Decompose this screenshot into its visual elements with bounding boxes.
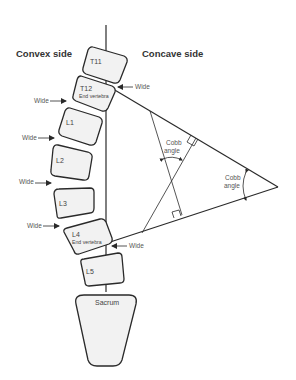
svg-text:Wide: Wide (135, 83, 150, 90)
svg-text:Wide: Wide (19, 178, 34, 185)
wide-indicator-left-1: Wide (34, 97, 66, 104)
vertebra-l3: L3 (54, 188, 94, 218)
svg-text:L1: L1 (66, 119, 74, 126)
vertebra-l1: L1 (59, 108, 102, 145)
cobb-angle-diagram: Convex side Concave side Cobb angle Cobb… (0, 0, 296, 380)
sacrum: Sacrum (76, 295, 137, 366)
svg-text:End vertebra: End vertebra (72, 239, 102, 245)
svg-text:Wide: Wide (34, 97, 49, 104)
inner-cobb-arc (163, 157, 182, 160)
svg-text:L2: L2 (56, 157, 64, 164)
svg-text:Wide: Wide (129, 242, 144, 249)
svg-text:T12: T12 (80, 85, 92, 92)
wide-indicator-right-top: Wide (118, 83, 150, 90)
upper-endplate-line (108, 86, 278, 187)
vertebra-t11: T11 (83, 47, 127, 83)
lower-endplate-line (98, 187, 278, 246)
wide-indicator-right-bottom: Wide (112, 242, 144, 249)
svg-text:L5: L5 (86, 268, 94, 275)
svg-text:L3: L3 (59, 200, 67, 207)
svg-text:T11: T11 (90, 58, 102, 65)
vertebra-l4: L4 End vertebra (64, 219, 112, 254)
concave-side-heading: Concave side (142, 48, 203, 59)
convex-side-heading: Convex side (16, 48, 72, 59)
right-angle-marker-lower (172, 210, 181, 218)
vertebra-l5: L5 (81, 253, 124, 286)
outer-cobb-label-1: Cobb (225, 174, 241, 181)
svg-text:End vertebra: End vertebra (79, 93, 109, 99)
wide-indicator-left-3: Wide (19, 178, 51, 185)
outer-cobb-label-2: angle (224, 182, 240, 190)
svg-text:L4: L4 (72, 231, 80, 238)
svg-text:Sacrum: Sacrum (95, 299, 119, 306)
svg-text:Wide: Wide (27, 222, 42, 229)
vertebra-l2: L2 (51, 145, 92, 180)
outer-cobb-arc (243, 172, 246, 200)
inner-cobb-label-1: Cobb (166, 139, 182, 146)
svg-text:Wide: Wide (22, 134, 37, 141)
inner-cobb-label-2: angle (164, 147, 180, 155)
wide-indicator-left-2: Wide (22, 134, 54, 141)
wide-indicator-left-4: Wide (27, 222, 59, 229)
